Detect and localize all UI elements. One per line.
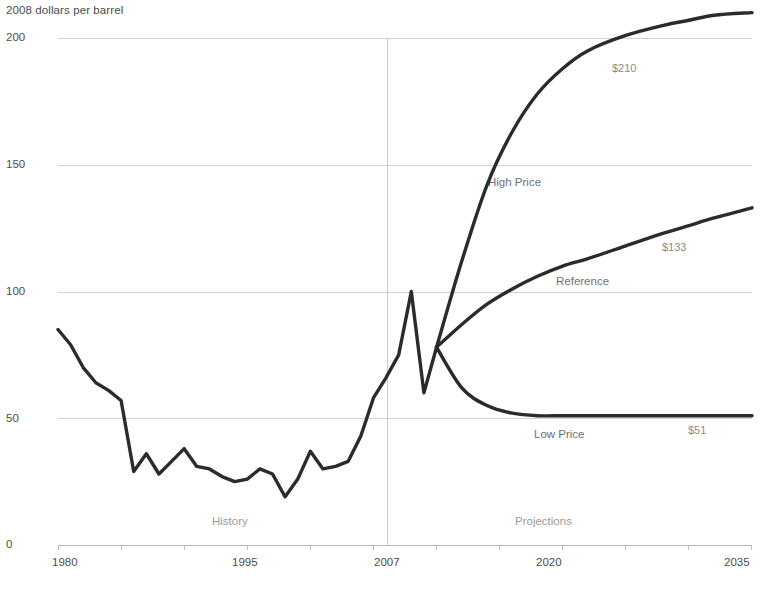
oil-price-chart: 2008 dollars per barrel 200 150 100 50 0… xyxy=(0,0,775,600)
series-path-high-price xyxy=(437,13,752,348)
series-path-history xyxy=(58,292,437,497)
data-lines xyxy=(0,0,775,600)
series-path-reference xyxy=(437,208,752,347)
series-path-low-price xyxy=(437,347,752,416)
